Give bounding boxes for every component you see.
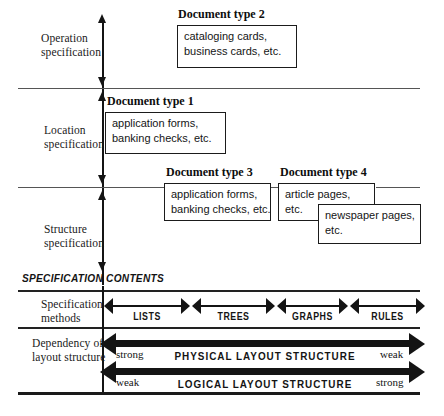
doc-box-type4-newspaper: newspaper pages, etc. [318, 204, 421, 244]
arrow-shaft [114, 368, 411, 375]
axis-arrow-bottom [98, 262, 106, 271]
arrow-head-right-icon [409, 333, 425, 355]
doc-box-type1-line1: application forms, [112, 116, 220, 131]
band-label-operation-line2: specification [41, 46, 101, 60]
band-label-structure: Structure specification [44, 223, 104, 250]
band-label-location-line2: specification [44, 138, 104, 152]
axis-arrow-structure-top [98, 191, 106, 200]
table-rule-top [18, 290, 420, 292]
doc-box-type1: application forms, banking checks, etc. [105, 112, 226, 154]
dependency-logical-right-cap: strong [376, 376, 404, 388]
doc-box-type2-line1: cataloging cards, [184, 29, 291, 44]
band-label-operation-line1: Operation [41, 32, 101, 46]
dependency-physical-left-cap: strong [116, 348, 144, 360]
arrow-shaft [200, 305, 267, 307]
arrow-shaft [114, 340, 411, 347]
diagram-canvas: Operation specification Location specifi… [0, 0, 444, 416]
doc-box-type1-line2: banking checks, etc. [112, 131, 220, 146]
band-separator-2-mid [270, 187, 278, 188]
doc-box-type3: application forms, banking checks, etc. [164, 183, 271, 221]
doc-box-type4-newspaper-line1: newspaper pages, [325, 208, 415, 223]
dependency-physical-right-cap: weak [380, 348, 403, 360]
doc-title-type3: Document type 3 [166, 166, 253, 179]
band-label-structure-line1: Structure [44, 223, 104, 237]
doc-box-type4-line1: article pages, [285, 187, 369, 202]
doc-title-type1: Document type 1 [107, 95, 194, 108]
section-header-specification-contents: SPECIFICATION CONTENTS [22, 272, 164, 284]
band-label-operation: Operation specification [41, 32, 101, 59]
method-label-graphs: GRAPHS [281, 311, 343, 322]
dependency-logical-left-cap: weak [116, 376, 139, 388]
row-label-dependency-line1: Dependency of [32, 337, 105, 351]
table-rule-mid [18, 327, 420, 329]
row-label-specification-methods-line1: Specification [41, 298, 103, 312]
band-label-location: Location specification [44, 124, 104, 151]
arrow-shaft [285, 305, 340, 307]
method-label-rules: RULES [355, 311, 421, 322]
arrow-shaft [112, 305, 182, 307]
arrow-shaft [358, 305, 417, 307]
row-label-dependency-line2: layout structure [32, 351, 105, 365]
row-label-specification-methods: Specification methods [41, 298, 103, 325]
band-separator-2-left [18, 187, 164, 188]
method-label-lists: LISTS [109, 311, 185, 322]
doc-title-type4: Document type 4 [280, 166, 367, 179]
table-rule-bottom [18, 392, 420, 395]
band-separator-1 [18, 88, 420, 89]
band-label-location-line1: Location [44, 124, 104, 138]
doc-box-type2: cataloging cards, business cards, etc. [177, 25, 297, 68]
doc-box-type4-newspaper-line2: etc. [325, 223, 415, 238]
band-label-structure-line2: specification [44, 237, 104, 251]
doc-title-type2: Document type 2 [178, 8, 265, 21]
axis-arrow-operation-bottom [98, 77, 106, 86]
axis-arrow-location-bottom [98, 175, 106, 184]
row-label-specification-methods-line2: methods [41, 312, 103, 326]
method-label-trees: TREES [197, 311, 270, 322]
axis-arrow-location-top [98, 92, 106, 101]
dependency-logical-label: LOGICAL LAYOUT STRUCTURE [162, 378, 369, 390]
doc-box-type2-line2: business cards, etc. [184, 44, 291, 59]
row-label-dependency: Dependency of layout structure [32, 337, 105, 364]
band-separator-2-right [376, 187, 420, 188]
arrow-head-right-icon [409, 361, 425, 383]
doc-box-type3-line1: application forms, [171, 187, 265, 202]
doc-box-type3-line2: banking checks, etc. [171, 202, 265, 217]
